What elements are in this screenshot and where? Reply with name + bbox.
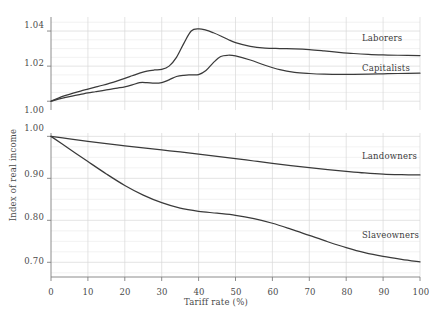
ytick-label-upper-2: 1.02 bbox=[8, 58, 44, 68]
xtick-label-100: 100 bbox=[406, 287, 432, 297]
xtick-label-60: 60 bbox=[258, 287, 288, 297]
xtick-label-30: 30 bbox=[147, 287, 177, 297]
series-label-capitalists: Capitalists bbox=[362, 63, 410, 73]
xtick-label-50: 50 bbox=[221, 287, 251, 297]
ytick-label-upper-1: 1.04 bbox=[8, 20, 44, 30]
y-axis-title: Index of real income bbox=[8, 115, 18, 235]
xtick-label-70: 70 bbox=[295, 287, 325, 297]
x-axis-title: Tariff rate (%) bbox=[0, 297, 432, 307]
xtick-label-10: 10 bbox=[73, 287, 103, 297]
ytick-label-lower-4: 0.70 bbox=[8, 256, 44, 266]
xtick-label-80: 80 bbox=[332, 287, 362, 297]
xtick-label-90: 90 bbox=[369, 287, 399, 297]
series-label-slaveowners: Slaveowners bbox=[362, 230, 419, 240]
chart-figure: 1.04 1.02 1.00 1.00 0.90 0.80 0.70 0 10 … bbox=[0, 0, 432, 320]
series-label-landowners: Landowners bbox=[362, 151, 417, 161]
xtick-label-20: 20 bbox=[110, 287, 140, 297]
ytick-label-upper-3: 1.00 bbox=[8, 105, 44, 115]
xtick-label-40: 40 bbox=[184, 287, 214, 297]
xtick-label-0: 0 bbox=[36, 287, 66, 297]
series-label-laborers: Laborers bbox=[362, 33, 402, 43]
